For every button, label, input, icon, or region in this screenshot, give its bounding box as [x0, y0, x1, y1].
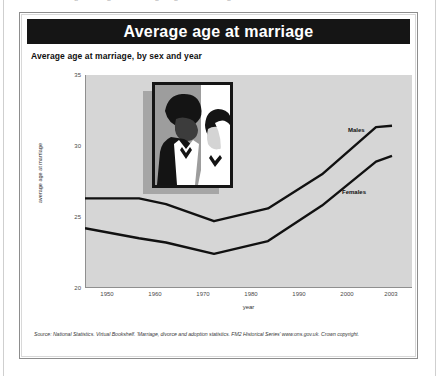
x-axis-label: year	[85, 304, 412, 310]
source-note: Source: National Statistics. Virtual Boo…	[34, 331, 406, 337]
x-tick-5: 2000	[340, 291, 353, 297]
y-tick-0: 20	[74, 285, 81, 291]
x-tick-2: 1970	[196, 291, 209, 297]
clipart-artwork	[155, 85, 230, 185]
data-lines	[85, 75, 412, 288]
y-tick-2: 30	[74, 143, 81, 149]
bride-and-groom-clipart	[143, 82, 233, 197]
figure-card: Average age at marriage Average age at m…	[19, 12, 418, 359]
x-tick-0: 1950	[100, 291, 113, 297]
x-tick-4: 1990	[292, 291, 305, 297]
y-axis-label: average age at marriage	[37, 118, 43, 228]
series-label-males: Males	[348, 127, 365, 133]
page-rule-left	[3, 0, 4, 376]
series-line-males	[85, 126, 392, 222]
figure-subtitle: Average age at marriage, by sex and year	[31, 51, 202, 61]
y-tick-3: 35	[74, 72, 81, 78]
series-line-females	[85, 156, 392, 254]
bleed-text: thagt eaeagrto ee erage age at marriage	[60, 0, 237, 1]
x-tick-1: 1960	[148, 291, 161, 297]
page-title: Average age at marriage	[27, 19, 410, 44]
chart-area: 20 25 30 35 1950 1960 1970 1980 1990 200…	[31, 65, 406, 325]
clipart-frame	[152, 82, 233, 188]
page-rule-right	[435, 0, 436, 376]
x-tick-3: 1980	[244, 291, 257, 297]
page-top-bleed-text: thagt eaeagrto ee erage age at marriage	[0, 0, 439, 9]
figure-title-bar: Average age at marriage	[27, 19, 410, 44]
x-tick-6: 2003	[384, 291, 397, 297]
series-label-females: Females	[342, 189, 366, 195]
y-tick-1: 25	[74, 214, 81, 220]
